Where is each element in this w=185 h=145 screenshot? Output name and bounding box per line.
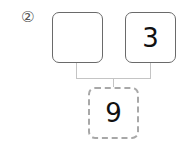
right-box-value: 3: [142, 23, 159, 53]
left-number-box[interactable]: [52, 12, 103, 63]
connector-left-vertical: [76, 63, 77, 78]
result-number-box: 9: [88, 87, 139, 139]
connector-right-vertical: [150, 63, 151, 78]
right-number-box: 3: [125, 12, 176, 63]
problem-number: ②: [21, 8, 34, 26]
result-box-value: 9: [105, 98, 122, 128]
